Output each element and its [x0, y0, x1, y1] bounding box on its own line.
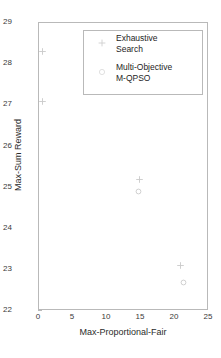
- y-axis-label: Max-Sum Reward: [13, 75, 23, 235]
- x-tick-label: 15: [128, 313, 152, 321]
- x-tick-label: 10: [94, 313, 118, 321]
- y-tick-label: 28: [0, 59, 12, 67]
- x-tick-label: 25: [196, 313, 220, 321]
- x-tick-label: 20: [162, 313, 186, 321]
- x-tick-label: 0: [26, 313, 50, 321]
- y-tick-label: 27: [0, 100, 12, 108]
- y-tick-label: 29: [0, 18, 12, 26]
- y-tick-label: 23: [0, 265, 12, 273]
- data-point: [177, 262, 184, 269]
- y-tick-label: 26: [0, 142, 12, 150]
- y-tick-label: 22: [0, 306, 12, 314]
- data-point: [136, 176, 143, 183]
- legend-entry-multi-objective-mqpso: Multi-Objective M-QPSO: [84, 64, 202, 92]
- data-point: [135, 188, 142, 195]
- y-tick-label: 24: [0, 224, 12, 232]
- legend-label: Multi-Objective M-QPSO: [116, 62, 172, 83]
- x-axis-label: Max-Proportional-Fair: [38, 327, 208, 337]
- circle-marker-icon: [98, 68, 106, 76]
- legend-entry-exhaustive-search: Exhaustive Search: [84, 35, 202, 63]
- x-tick-label: 5: [60, 313, 84, 321]
- legend-box: Exhaustive Search Multi-Objective M-QPSO: [83, 30, 203, 95]
- scatter-plot-figure: 29 28 27 26 25 24 23 22 0 5 10 15 20 25: [0, 0, 221, 358]
- data-point: [39, 98, 46, 105]
- legend-label: Exhaustive Search: [116, 33, 158, 54]
- data-point: [180, 279, 187, 286]
- y-tick-label: 25: [0, 183, 12, 191]
- plus-marker-icon: [98, 39, 106, 47]
- data-point: [39, 48, 46, 55]
